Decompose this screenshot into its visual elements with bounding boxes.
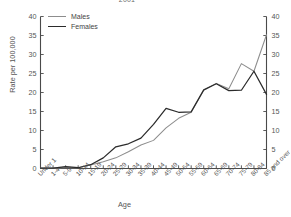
series-line-males [41,35,267,168]
y-tick-label-left: 0 [7,165,37,172]
legend-swatch-males-icon [48,16,66,17]
y-tick-label-left: 20 [7,89,37,96]
y-tick-label-left: 10 [7,127,37,134]
legend-item-males: Males [48,11,98,21]
legend-label-males: Males [71,13,90,20]
y-tick-label-left: 30 [7,51,37,58]
y-tick-label-right: 15 [272,108,291,115]
y-tick-label-right: 25 [272,70,291,77]
legend-swatch-females-icon [48,26,66,27]
x-axis-label: Age [118,200,131,209]
y-tick-label-right: 30 [272,51,291,58]
y-tick-label-left: 40 [7,13,37,20]
y-tick-label-right: 10 [272,127,291,134]
series-line-females [41,71,267,168]
y-tick-label-right: 20 [272,89,291,96]
chart-figure: 2001 Rate per 100,000 Age Males Females … [0,0,290,217]
y-tick-label-left: 25 [7,70,37,77]
y-tick-label-left: 35 [7,32,37,39]
y-tick-label-right: 35 [272,32,291,39]
y-tick-label-left: 15 [7,108,37,115]
legend-item-females: Females [48,21,98,31]
legend-label-females: Females [71,23,98,30]
y-tick-label-right: 40 [272,13,291,20]
chart-plot-area [0,0,290,217]
chart-legend: Males Females [48,11,98,31]
y-tick-label-left: 5 [7,146,37,153]
